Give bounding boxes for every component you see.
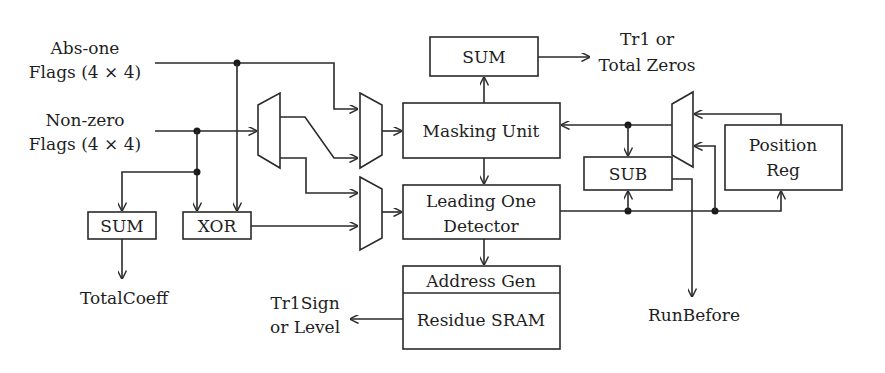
svg-text:Abs-one: Abs-one (50, 38, 120, 58)
svg-text:Flags (4 × 4): Flags (4 × 4) (29, 62, 141, 82)
svg-text:Non-zero: Non-zero (45, 110, 124, 130)
svg-text:Flags (4 × 4): Flags (4 × 4) (29, 134, 141, 154)
svg-text:Leading One: Leading One (426, 191, 536, 211)
non-zero-flags-label: Non-zero Flags (4 × 4) (29, 110, 141, 154)
svg-text:Reg: Reg (766, 160, 800, 180)
svg-text:XOR: XOR (198, 216, 238, 236)
demux-1-outputs (280, 117, 358, 193)
svg-text:Tr1Sign: Tr1Sign (270, 293, 339, 313)
xor-block: XOR (183, 212, 251, 239)
svg-text:Detector: Detector (443, 216, 519, 236)
sum-tr1-block: SUM (430, 37, 538, 76)
tr1sign-level-label: Tr1Sign or Level (270, 293, 340, 337)
svg-text:SUM: SUM (100, 216, 143, 236)
svg-text:or Level: or Level (270, 317, 340, 337)
svg-text:SUB: SUB (609, 164, 647, 184)
runbefore-arrow (672, 179, 692, 297)
abs-one-flags-label: Abs-one Flags (4 × 4) (29, 38, 141, 82)
address-gen-residue-sram-block: Address Gen Residue SRAM (403, 266, 560, 349)
runbefore-label: RunBefore (648, 305, 740, 325)
abs-one-wire (155, 60, 358, 212)
block-diagram: Abs-one Flags (4 × 4) Non-zero Flags (4 … (0, 0, 885, 373)
mux-3 (360, 177, 382, 250)
svg-text:Masking Unit: Masking Unit (423, 121, 540, 141)
tr1-total-zeros-label: Tr1 or Total Zeros (598, 29, 695, 75)
mux-right (672, 92, 693, 167)
address-gen-label: Address Gen (425, 271, 536, 291)
totalcoeff-label: TotalCoeff (80, 288, 170, 308)
demux-1 (258, 93, 280, 168)
residue-sram-label: Residue SRAM (417, 310, 545, 330)
sub-block: SUB (584, 157, 672, 190)
sum-totalcoeff-block: SUM (88, 212, 156, 239)
position-reg-feedback-wire (694, 114, 781, 125)
svg-text:SUM: SUM (462, 47, 505, 67)
svg-text:Position: Position (749, 135, 818, 155)
svg-text:Tr1 or: Tr1 or (620, 29, 675, 49)
position-reg-block: Position Reg (725, 125, 842, 190)
svg-text:Total Zeros: Total Zeros (598, 55, 695, 75)
masking-unit-block: Masking Unit (403, 103, 560, 158)
mux-2 (360, 93, 382, 168)
leading-one-detector-block: Leading One Detector (403, 185, 560, 239)
